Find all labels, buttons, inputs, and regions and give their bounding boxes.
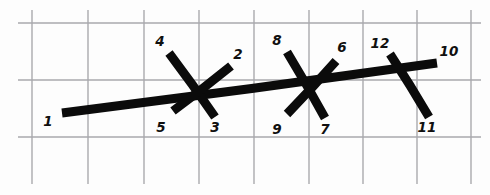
label-1: 1 — [43, 113, 52, 129]
label-10: 10 — [440, 43, 459, 59]
label-9: 9 — [272, 121, 281, 137]
label-6: 6 — [337, 39, 346, 55]
segment-diagram: 123456789101112 — [0, 0, 490, 195]
label-4: 4 — [154, 33, 164, 49]
label-5: 5 — [156, 119, 165, 135]
label-8: 8 — [272, 32, 281, 48]
diagram-canvas: 123456789101112 — [0, 0, 490, 195]
label-3: 3 — [210, 119, 219, 135]
label-7: 7 — [320, 121, 330, 137]
label-12: 12 — [371, 35, 390, 51]
label-11: 11 — [418, 119, 437, 135]
label-2: 2 — [233, 46, 242, 62]
